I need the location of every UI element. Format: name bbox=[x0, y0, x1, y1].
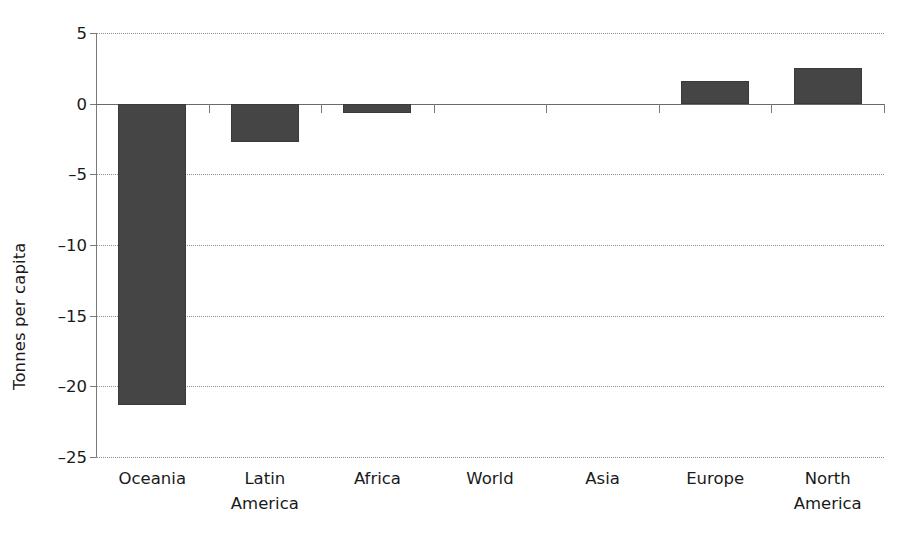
x-axis-category-label: World bbox=[466, 466, 513, 491]
y-axis-tick-label: –25 bbox=[58, 448, 87, 467]
x-axis-category-label: Asia bbox=[585, 466, 620, 491]
x-axis-labels: OceaniaLatin AmericaAfricaWorldAsiaEurop… bbox=[96, 466, 884, 536]
x-axis-tick bbox=[546, 104, 547, 113]
x-axis-category-label: Europe bbox=[686, 466, 744, 491]
y-axis-tick-label: –20 bbox=[58, 377, 87, 396]
gridline bbox=[96, 316, 884, 317]
plot-area: 50–5–10–15–20–25 bbox=[96, 33, 884, 457]
y-axis-tick-label: –5 bbox=[68, 165, 87, 184]
bar bbox=[343, 104, 411, 113]
x-axis-tick bbox=[321, 104, 322, 113]
gridline bbox=[96, 457, 884, 458]
gridline bbox=[96, 386, 884, 387]
bar bbox=[794, 68, 862, 104]
y-axis-line bbox=[96, 33, 97, 457]
y-axis-title: Tonnes per capita bbox=[10, 90, 46, 390]
zero-baseline bbox=[96, 104, 884, 105]
x-axis-tick bbox=[209, 104, 210, 113]
bar bbox=[231, 104, 299, 142]
x-axis-category-label: Oceania bbox=[119, 466, 186, 491]
gridline bbox=[96, 245, 884, 246]
y-axis-tick-label: –10 bbox=[58, 236, 87, 255]
x-axis-category-label: North America bbox=[794, 466, 862, 516]
y-axis-tick-label: –15 bbox=[58, 306, 87, 325]
gridline bbox=[96, 174, 884, 175]
bar bbox=[118, 104, 186, 405]
bar bbox=[681, 81, 749, 104]
y-axis-tick-label: 5 bbox=[77, 24, 88, 43]
x-axis-tick bbox=[884, 104, 885, 113]
y-axis-tick-label: 0 bbox=[77, 94, 88, 113]
x-axis-tick bbox=[434, 104, 435, 113]
x-axis-category-label: Latin America bbox=[231, 466, 299, 516]
bar-chart: Tonnes per capita 50–5–10–15–20–25 Ocean… bbox=[0, 0, 900, 543]
x-axis-tick bbox=[771, 104, 772, 113]
y-axis-tick bbox=[90, 457, 96, 458]
x-axis-tick bbox=[659, 104, 660, 113]
x-axis-category-label: Africa bbox=[354, 466, 401, 491]
gridline bbox=[96, 33, 884, 34]
